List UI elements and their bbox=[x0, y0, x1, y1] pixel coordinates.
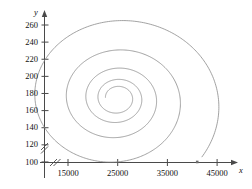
y-tick-label: 120 bbox=[8, 140, 38, 149]
trajectory-start-marker bbox=[196, 161, 199, 164]
y-tick-label: 180 bbox=[8, 89, 38, 98]
y-tick-label: 140 bbox=[8, 123, 38, 132]
y-tick-label: 160 bbox=[8, 106, 38, 115]
y-axis-arrow-icon bbox=[42, 10, 47, 17]
x-tick-label: 15000 bbox=[45, 169, 91, 178]
y-tick-label: 260 bbox=[8, 21, 38, 30]
y-tick-label: 220 bbox=[8, 55, 38, 64]
y-axis-title: y bbox=[34, 7, 38, 17]
x-axis-title: x bbox=[239, 165, 243, 175]
y-tick-label: 100 bbox=[8, 158, 38, 167]
x-tick-label: 25000 bbox=[95, 169, 141, 178]
x-axis-arrow-icon bbox=[231, 160, 238, 165]
spiral-trajectory-curve bbox=[35, 21, 219, 163]
x-tick-label: 35000 bbox=[144, 169, 190, 178]
spiral-phase-plot: 260240220200180160140120100 150002500035… bbox=[0, 0, 252, 189]
y-tick-label: 240 bbox=[8, 38, 38, 47]
y-tick-label: 200 bbox=[8, 72, 38, 81]
x-tick-label: 45000 bbox=[194, 169, 240, 178]
